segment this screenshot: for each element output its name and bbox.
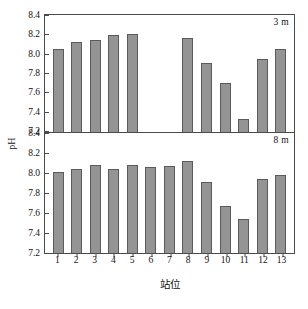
bar-station-4 xyxy=(108,169,119,253)
bar-slot xyxy=(160,133,179,253)
y-tick-label: 7.4 xyxy=(28,228,45,238)
bar-slot xyxy=(216,133,235,253)
y-tick-label: 7.8 xyxy=(28,68,45,78)
y-tick-label: 7.8 xyxy=(28,188,45,198)
x-axis-title: 站位 xyxy=(44,276,295,291)
bar-station-13 xyxy=(275,175,286,253)
x-tick-label-7: 7 xyxy=(160,255,179,265)
bar-slot xyxy=(105,15,124,132)
bar-station-2 xyxy=(71,42,82,132)
bar-slot xyxy=(86,133,105,253)
bar-station-11 xyxy=(238,219,249,253)
bar-station-11 xyxy=(238,119,249,132)
bar-slot xyxy=(179,15,198,132)
y-tick-label: 8.2 xyxy=(28,29,45,39)
bar-station-1 xyxy=(53,49,64,132)
bar-group-8m xyxy=(45,133,294,253)
bar-station-5 xyxy=(127,165,138,253)
y-tick-label: 8.0 xyxy=(28,168,45,178)
bar-slot xyxy=(216,15,235,132)
x-tick-label-9: 9 xyxy=(198,255,217,265)
y-tick-label: 7.6 xyxy=(28,87,45,97)
bar-slot xyxy=(271,133,290,253)
bar-station-13 xyxy=(275,49,286,132)
bar-slot xyxy=(271,15,290,132)
panel-3m: 3 m 8.48.28.07.87.67.47.2 xyxy=(44,14,295,132)
bar-station-1 xyxy=(53,172,64,253)
bar-station-12 xyxy=(257,59,268,132)
bar-station-4 xyxy=(108,35,119,132)
x-tick-label-12: 12 xyxy=(254,255,273,265)
x-tick-label-6: 6 xyxy=(141,255,160,265)
x-tick-label-2: 2 xyxy=(67,255,86,265)
bar-slot xyxy=(68,133,87,253)
x-tick-label-11: 11 xyxy=(235,255,254,265)
bar-slot xyxy=(179,133,198,253)
bar-station-9 xyxy=(201,63,212,132)
bar-slot xyxy=(123,15,142,132)
x-tick-label-8: 8 xyxy=(179,255,198,265)
bar-slot xyxy=(142,15,161,132)
bar-slot xyxy=(234,133,253,253)
x-axis-tick-labels: 12345678910111213 xyxy=(44,255,295,265)
bar-station-9 xyxy=(201,182,212,253)
bar-slot xyxy=(197,133,216,253)
bar-slot xyxy=(234,15,253,132)
bar-slot xyxy=(253,15,272,132)
bar-station-5 xyxy=(127,34,138,132)
bar-station-3 xyxy=(90,165,101,253)
bar-slot xyxy=(68,15,87,132)
y-tick-label: 8.4 xyxy=(28,10,45,20)
bar-station-7 xyxy=(164,166,175,253)
x-tick-label-13: 13 xyxy=(272,255,291,265)
panel-8m: 8 m 8.48.28.07.87.67.47.2 xyxy=(44,132,295,254)
bar-station-10 xyxy=(220,83,231,132)
bar-slot xyxy=(105,133,124,253)
bar-slot xyxy=(253,133,272,253)
x-tick-label-1: 1 xyxy=(48,255,67,265)
y-tick-label: 7.2 xyxy=(28,248,45,258)
bar-station-10 xyxy=(220,206,231,253)
bar-group-3m xyxy=(45,15,294,132)
x-tick-label-5: 5 xyxy=(123,255,142,265)
x-tick-label-4: 4 xyxy=(104,255,123,265)
bar-station-8 xyxy=(182,161,193,253)
bar-slot xyxy=(160,15,179,132)
y-tick-label: 8.2 xyxy=(28,148,45,158)
bar-station-8 xyxy=(182,38,193,132)
x-tick-label-3: 3 xyxy=(85,255,104,265)
bar-slot xyxy=(49,133,68,253)
plot-area-8m xyxy=(45,133,294,253)
bar-station-2 xyxy=(71,169,82,253)
bar-station-12 xyxy=(257,179,268,253)
bar-slot xyxy=(197,15,216,132)
plot-area-3m xyxy=(45,15,294,132)
y-tick-label: 8.4 xyxy=(28,128,45,138)
x-tick-label-10: 10 xyxy=(216,255,235,265)
bar-slot xyxy=(49,15,68,132)
y-axis-title: pH xyxy=(6,124,17,164)
bar-station-3 xyxy=(90,40,101,132)
y-tick-label: 7.4 xyxy=(28,107,45,117)
ph-station-bar-chart: pH 3 m 8.48.28.07.87.67.47.2 8 m 8.48.28… xyxy=(0,0,308,309)
bar-station-6 xyxy=(145,167,156,253)
bar-slot xyxy=(123,133,142,253)
y-tick-label: 8.0 xyxy=(28,49,45,59)
y-tick-label: 7.6 xyxy=(28,208,45,218)
bar-slot xyxy=(142,133,161,253)
bar-slot xyxy=(86,15,105,132)
